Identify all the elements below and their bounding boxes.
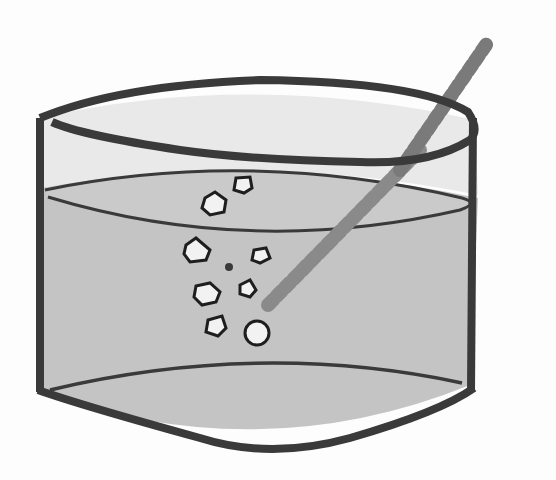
bubble-small [225,263,233,271]
bubble [234,177,252,193]
bubble [245,321,269,345]
beaker-right-wall [471,118,473,392]
bubble [252,248,270,263]
beaker-illustration [0,0,556,480]
bubble [206,316,226,336]
